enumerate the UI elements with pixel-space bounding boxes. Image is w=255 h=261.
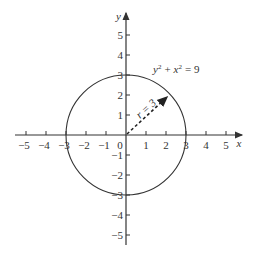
svg-text:5: 5 [118,29,124,41]
coordinate-plane: −5 −4 −3 −2 −1 1 2 3 4 5 0 x 5 4 3 2 1 −… [0,0,255,261]
svg-text:2: 2 [118,89,124,101]
svg-text:4: 4 [118,49,124,61]
x-tick-labels: −5 −4 −3 −2 −1 1 2 3 4 5 [18,139,229,151]
svg-text:−3: −3 [111,189,123,201]
svg-text:4: 4 [203,139,209,151]
equation-label: y2+x2= 9 [152,63,200,75]
svg-text:1: 1 [118,109,124,121]
svg-text:−1: −1 [98,139,110,151]
svg-text:3: 3 [183,139,189,151]
svg-text:2: 2 [163,139,169,151]
svg-text:−5: −5 [111,229,123,241]
y-axis-label: y [115,10,121,22]
svg-text:−4: −4 [111,209,123,221]
x-axis-label: x [236,137,242,149]
svg-text:−1: −1 [111,149,123,161]
svg-text:−2: −2 [111,169,123,181]
svg-text:1: 1 [143,139,149,151]
radius-label: r = 3 [133,96,158,120]
svg-text:−2: −2 [78,139,90,151]
svg-text:5: 5 [223,139,229,151]
svg-text:−4: −4 [38,139,50,151]
svg-text:−5: −5 [18,139,30,151]
svg-text:3: 3 [118,69,124,81]
svg-text:−3: −3 [58,139,70,151]
